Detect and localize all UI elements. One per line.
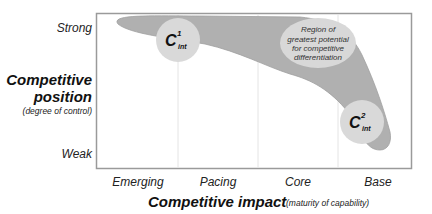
marker-c1-circle: [156, 18, 200, 62]
marker-c2-sup: 2: [360, 111, 366, 120]
x-tick-pacing: Pacing: [178, 175, 258, 189]
region-label-line: Region of: [301, 25, 336, 34]
x-tick-emerging: Emerging: [98, 175, 178, 189]
marker-c1-sub: int: [178, 43, 187, 50]
region-label-line: greatest potential: [287, 35, 349, 44]
x-axis-title: Competitive impact: [148, 193, 286, 210]
marker-c1-base: C: [165, 32, 177, 49]
x-tick-core: Core: [258, 175, 338, 189]
region-label-line: differentiation: [294, 53, 343, 62]
marker-c2-base: C: [349, 114, 361, 131]
marker-c1-sup: 1: [177, 29, 182, 38]
marker-c2-circle: [340, 100, 384, 144]
x-tick-base: Base: [338, 175, 418, 189]
marker-c2-sub: int: [362, 125, 371, 132]
x-axis-subtitle: (maturity of capability): [286, 198, 369, 208]
region-label-line: for competitive: [292, 44, 345, 53]
